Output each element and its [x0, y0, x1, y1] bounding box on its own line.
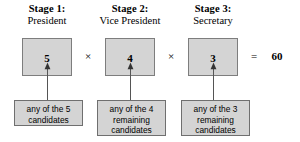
stage-1-role: President — [8, 15, 86, 26]
stage-header-2: Stage 2: Vice President — [91, 3, 169, 26]
stage-3-label: Stage 3: — [174, 3, 252, 14]
result-value: 60 — [264, 50, 290, 62]
stage-3-role: Secretary — [174, 15, 252, 26]
stage-2-label: Stage 2: — [91, 3, 169, 14]
multiply-operator-1: × — [81, 50, 95, 62]
description-line: candidates — [15, 115, 82, 126]
stage-header-3: Stage 3: Secretary — [174, 3, 252, 26]
description-line: remaining — [182, 115, 249, 126]
stage-header-1: Stage 1: President — [8, 3, 86, 26]
multiply-operator-2: × — [164, 50, 178, 62]
description-line: any of the 3 — [182, 104, 249, 115]
description-line: candidates — [182, 125, 249, 136]
stage-1-label: Stage 1: — [8, 3, 86, 14]
description-line: candidates — [98, 125, 165, 136]
connector-arrow-1 — [41, 62, 54, 102]
description-box-stage-3: any of the 3 remaining candidates — [181, 100, 250, 136]
description-box-stage-2: any of the 4 remaining candidates — [97, 100, 166, 136]
description-line: remaining — [98, 115, 165, 126]
description-box-stage-1: any of the 5 candidates — [14, 100, 83, 126]
equals-operator: = — [247, 50, 261, 62]
description-line: any of the 4 — [98, 104, 165, 115]
stage-2-role: Vice President — [91, 15, 169, 26]
stage-diagram: Stage 1: President Stage 2: Vice Preside… — [0, 0, 300, 142]
connector-arrow-3 — [207, 62, 220, 102]
connector-arrow-2 — [124, 62, 137, 102]
description-line: any of the 5 — [15, 104, 82, 115]
